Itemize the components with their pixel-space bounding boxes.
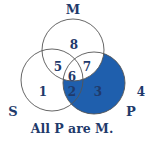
set-label-p: P (126, 104, 136, 119)
venn-diagram: M S P 8 5 7 6 1 2 3 4 All P are M. (0, 0, 151, 143)
region-label-3: 3 (94, 85, 102, 99)
region-label-4: 4 (137, 85, 145, 99)
region-label-6: 6 (68, 70, 76, 84)
region-label-7: 7 (83, 60, 91, 74)
region-label-2: 2 (68, 85, 76, 99)
set-label-m: M (66, 2, 80, 17)
region-label-5: 5 (54, 60, 62, 74)
region-label-1: 1 (39, 85, 47, 99)
region-label-8: 8 (70, 38, 78, 52)
diagram-caption: All P are M. (30, 121, 113, 136)
set-label-s: S (8, 104, 17, 119)
